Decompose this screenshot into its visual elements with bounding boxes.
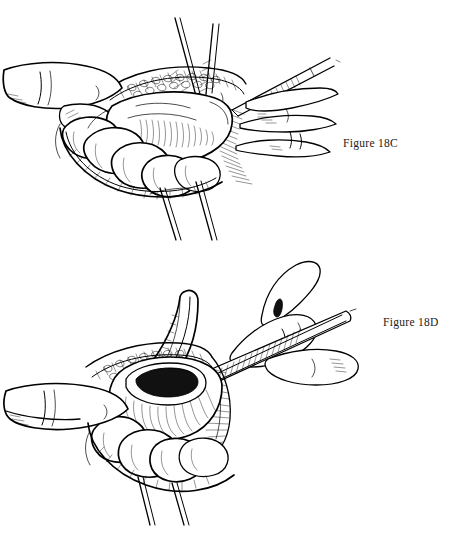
surgeon-fingers-right	[217, 88, 338, 184]
illustration-plate: Figure 18C	[0, 0, 459, 534]
figure-panel-18c	[0, 10, 340, 240]
figure-18c-drawing	[0, 10, 340, 240]
figure-caption-18c: Figure 18C	[343, 137, 398, 149]
figure-caption-18d: Figure 18D	[383, 316, 439, 328]
figure-18d-drawing	[0, 255, 370, 525]
surgeon-thumb-left	[3, 63, 122, 109]
figure-panel-18d	[0, 255, 370, 525]
